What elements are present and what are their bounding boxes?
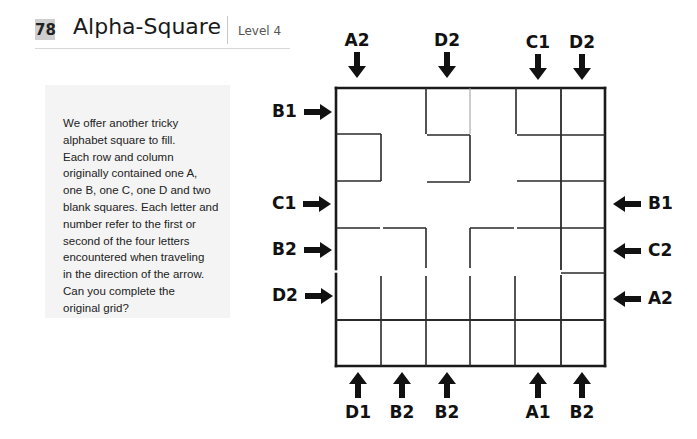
arrow-up-icon <box>518 372 558 400</box>
arrow-left-icon <box>612 243 642 259</box>
grid-cell-r3-c4[interactable] <box>516 227 561 273</box>
top-clue-col-5: D2 <box>562 33 602 84</box>
grid-cell-r1-c1[interactable] <box>381 134 426 181</box>
grid-cell-r0-c0[interactable] <box>336 88 381 134</box>
grid-cell-r1-c5[interactable] <box>561 134 605 181</box>
grid-cell-r5-c2[interactable] <box>426 320 471 366</box>
bottom-clue-col-0: D1 <box>338 372 378 421</box>
grid-cell-r4-c4[interactable] <box>516 273 561 320</box>
bottom-clue-col-5: B2 <box>562 372 602 421</box>
grid-cell-r2-c4[interactable] <box>516 181 561 227</box>
grid-cell-r3-c3[interactable] <box>471 227 516 273</box>
top-clue-col-4: C1 <box>518 33 558 84</box>
grid-cell-r0-c2[interactable] <box>426 88 471 134</box>
clue-label: B2 <box>435 403 460 421</box>
bottom-clue-col-1: B2 <box>382 372 422 421</box>
left-clue-row-2: C1 <box>272 194 332 212</box>
left-clue-row-4: D2 <box>272 286 334 304</box>
arrow-up-icon <box>427 372 467 400</box>
arrow-right-icon <box>302 196 332 212</box>
grid-cell-r1-c3[interactable] <box>471 134 516 181</box>
grid-cell-r5-c1[interactable] <box>381 320 426 366</box>
arrow-up-icon <box>338 372 378 400</box>
grid-cell-r2-c3[interactable] <box>471 181 516 227</box>
grid-cell-r4-c1[interactable] <box>381 273 426 320</box>
grid-cell-r0-c3[interactable] <box>471 88 516 134</box>
clue-label: D2 <box>272 286 298 304</box>
grid-cell-r5-c4[interactable] <box>516 320 561 366</box>
top-clue-col-2: D2 <box>427 31 467 82</box>
right-clue-row-2: B1 <box>612 194 673 212</box>
right-clue-row-4: A2 <box>612 289 673 307</box>
grid-cell-r3-c1[interactable] <box>381 227 426 273</box>
clue-label: C1 <box>526 33 550 51</box>
grid-cell-r2-c0[interactable] <box>336 181 381 227</box>
grid-cell-r2-c5[interactable] <box>561 181 605 227</box>
clue-label: B2 <box>272 240 297 258</box>
grid-cell-r2-c1[interactable] <box>381 181 426 227</box>
grid-cell-r5-c3[interactable] <box>471 320 516 366</box>
grid-cell-r5-c0[interactable] <box>336 320 381 366</box>
left-clue-row-3: B2 <box>272 240 333 258</box>
arrow-right-icon <box>303 242 333 258</box>
clue-label: C2 <box>648 241 672 259</box>
grid-cell-r4-c3[interactable] <box>471 273 516 320</box>
grid-cell-r3-c0[interactable] <box>336 227 381 273</box>
grid-cell-r1-c2[interactable] <box>426 134 471 181</box>
arrow-right-icon <box>303 104 333 120</box>
grid-cell-r0-c1[interactable] <box>381 88 426 134</box>
clue-label: A2 <box>345 31 370 49</box>
arrow-down-icon <box>562 51 602 81</box>
arrow-down-icon <box>427 49 467 79</box>
grid-cell-r4-c2[interactable] <box>426 273 471 320</box>
clue-label: C1 <box>272 194 296 212</box>
left-clue-row-0: B1 <box>272 102 333 120</box>
grid-cell-r4-c0[interactable] <box>336 273 381 320</box>
arrow-left-icon <box>612 196 642 212</box>
top-clue-col-0: A2 <box>337 31 377 82</box>
grid-cell-r4-c5[interactable] <box>561 273 605 320</box>
clue-label: D2 <box>569 33 595 51</box>
clue-label: A1 <box>526 403 551 421</box>
clue-label: D2 <box>434 31 460 49</box>
clue-label: A2 <box>648 289 673 307</box>
grid-cell-r5-c5[interactable] <box>561 320 605 366</box>
arrow-up-icon <box>382 372 422 400</box>
grid-cell-r0-c5[interactable] <box>561 88 605 134</box>
arrow-down-icon <box>337 49 377 79</box>
grid-cell-r2-c2[interactable] <box>426 181 471 227</box>
clue-label: B2 <box>570 403 595 421</box>
arrow-right-icon <box>304 288 334 304</box>
bottom-clue-col-4: A1 <box>518 372 558 421</box>
arrow-up-icon <box>562 372 602 400</box>
grid-cell-r0-c4[interactable] <box>516 88 561 134</box>
arrow-left-icon <box>612 291 642 307</box>
right-clue-row-3: C2 <box>612 241 672 259</box>
clue-label: B2 <box>390 403 415 421</box>
grid-cell-r3-c2[interactable] <box>426 227 471 273</box>
clue-label: D1 <box>345 403 371 421</box>
arrow-down-icon <box>518 51 558 81</box>
bottom-clue-col-2: B2 <box>427 372 467 421</box>
grid-cell-r1-c4[interactable] <box>516 134 561 181</box>
grid-cell-r3-c5[interactable] <box>561 227 605 273</box>
grid-cell-r1-c0[interactable] <box>336 134 381 181</box>
clue-label: B1 <box>272 102 297 120</box>
clue-label: B1 <box>648 194 673 212</box>
